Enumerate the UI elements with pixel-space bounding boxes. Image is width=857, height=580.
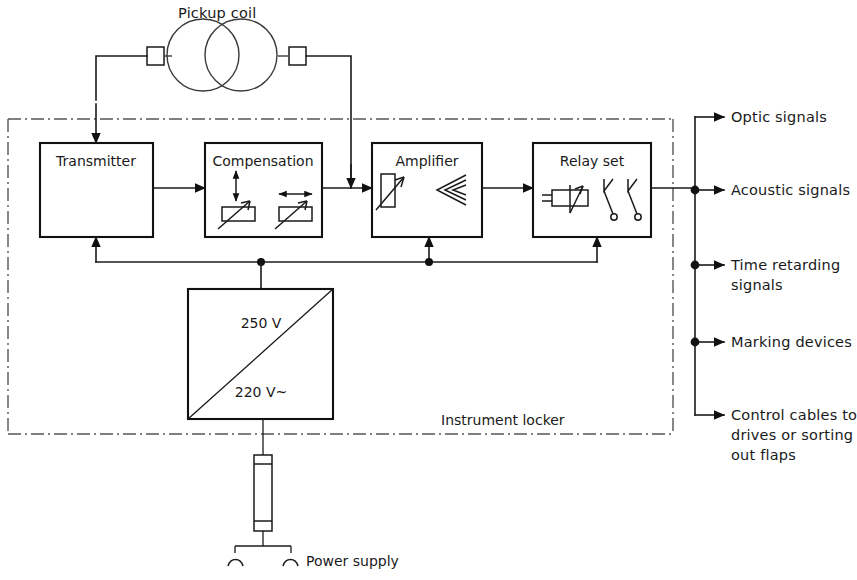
output-label-optic: Optic signals [731, 109, 827, 125]
block-transmitter-label: Transmitter [55, 153, 136, 169]
output-acoustic [691, 186, 724, 195]
output-marking [691, 338, 724, 347]
fuse-icon [254, 455, 272, 531]
output-label-time-retarding: Time retarding [730, 257, 840, 273]
pickup-coil [147, 19, 306, 91]
power-supply-label: Power supply [306, 553, 399, 569]
output-time-retarding [691, 261, 724, 270]
block-relay-set-label: Relay set [560, 153, 625, 169]
block-diagram: Instrument locker Pickup coil Transmitte… [0, 0, 857, 580]
block-compensation-label: Compensation [212, 153, 313, 169]
output-label-control-cables-line2: drives or sorting [731, 427, 853, 443]
power-distribution-bus [96, 237, 597, 266]
diagram-canvas: Instrument locker Pickup coil Transmitte… [0, 0, 857, 580]
output-label-marking: Marking devices [731, 334, 852, 350]
block-amplifier[interactable]: Amplifier [372, 143, 482, 237]
power-supply-block[interactable]: 250 V 220 V~ [188, 262, 333, 419]
coil-left-lead [96, 56, 147, 143]
power-supply-voltage-ac: 220 V~ [235, 384, 287, 400]
output-label-control-cables-line3: out flaps [731, 447, 796, 463]
mains-plug-icon [228, 546, 298, 566]
block-compensation[interactable]: Compensation [205, 143, 322, 237]
pickup-coil-label: Pickup coil [178, 5, 256, 21]
output-label-control-cables: Control cables to [731, 407, 857, 423]
enclosure-label: Instrument locker [441, 412, 565, 428]
mains-connection: Power supply [228, 419, 399, 569]
block-relay-set[interactable]: Relay set [533, 143, 651, 237]
output-label-time-retarding-line2: signals [731, 277, 783, 293]
power-supply-voltage-dc: 250 V [241, 315, 282, 331]
output-label-acoustic: Acoustic signals [731, 182, 850, 198]
block-transmitter[interactable]: Transmitter [40, 143, 153, 237]
block-amplifier-label: Amplifier [395, 153, 458, 169]
